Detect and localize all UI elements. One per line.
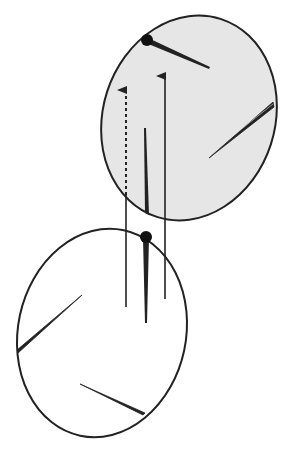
lower-dot: [140, 231, 152, 243]
upper-dot: [141, 34, 153, 46]
lower-ellipse-group: [0, 213, 206, 453]
upper-ellipse: [75, 0, 289, 243]
lower-ellipse: [0, 213, 206, 453]
two-ellipse-diagram: [0, 0, 289, 461]
upper-ellipse-group: [75, 0, 289, 243]
